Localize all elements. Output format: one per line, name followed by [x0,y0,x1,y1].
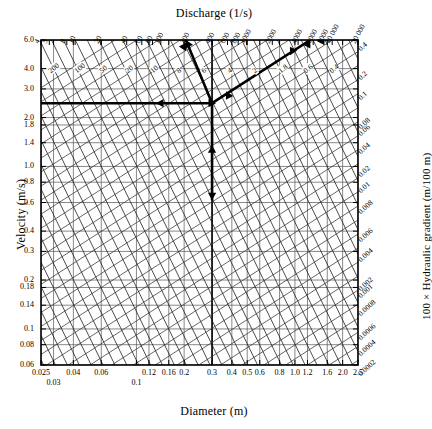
y-axis-tick-left: 0.8 [0,177,34,186]
y-axis-tick-left: 0.3 [0,246,34,255]
y-axis-tick-left: 1.4 [0,138,34,147]
x-axis-tick: 2.5 [342,368,374,377]
y-axis-tick-left: 1.8 [0,120,34,129]
y-axis-tick-left: 0.1 [0,324,34,333]
y-axis-tick-left: 1.0 [0,161,34,170]
y-axis-tick-left: 0.14 [0,300,34,309]
y-axis-tick-left: 0.6 [0,198,34,207]
y-axis-tick-left: 6.0 [0,35,34,44]
x-axis-tick: 0.1 [120,378,152,387]
y-axis-tick-left: 0.4 [0,226,34,235]
x-axis-tick: 0.03 [38,378,70,387]
x-axis-tick: 0.06 [85,368,117,377]
y-axis-tick-left: 0.08 [0,340,34,349]
solution-path-group [41,36,324,200]
y-axis-tick-left: 4.0 [0,64,34,73]
x-axis-tick: 0.025 [25,368,57,377]
y-axis-tick-left: 3.0 [0,84,34,93]
y-axis-tick-left: 0.18 [0,282,34,291]
